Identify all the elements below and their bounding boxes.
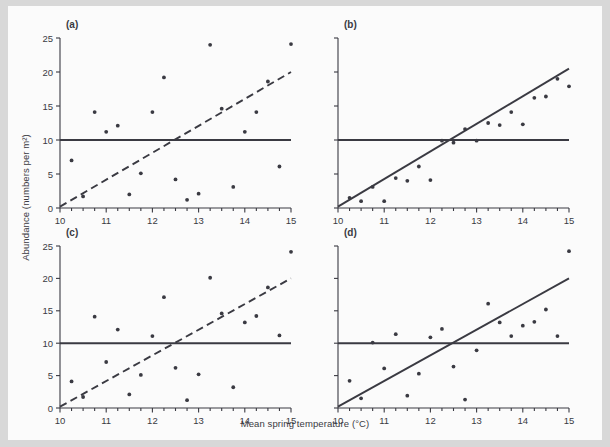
- x-tick-label: 15: [286, 215, 297, 226]
- x-tick-label: 12: [147, 215, 158, 226]
- x-tick-label: 13: [471, 415, 482, 426]
- y-tick-label: 0: [48, 403, 53, 414]
- data-point: [70, 159, 74, 163]
- data-point: [70, 380, 74, 384]
- x-tick-label: 13: [471, 215, 482, 226]
- data-point: [81, 195, 85, 199]
- data-point: [429, 335, 433, 339]
- data-point: [151, 334, 155, 338]
- data-point: [498, 321, 502, 325]
- x-tick-label: 10: [55, 415, 66, 426]
- y-tick-label: 15: [42, 305, 53, 316]
- data-point: [197, 372, 201, 376]
- data-point: [463, 127, 467, 131]
- panel-label: (d): [344, 227, 357, 238]
- data-point: [266, 286, 270, 290]
- data-point: [93, 315, 97, 319]
- data-point: [127, 392, 131, 396]
- data-point: [417, 165, 421, 169]
- data-point: [151, 110, 155, 114]
- data-point: [475, 348, 479, 352]
- y-tick-label: 5: [48, 370, 53, 381]
- data-point: [521, 324, 525, 328]
- data-point: [544, 95, 548, 99]
- x-tick-label: 15: [564, 415, 575, 426]
- panel-a: (a)0510152025101112131415: [42, 19, 296, 226]
- data-point: [556, 334, 560, 338]
- data-point: [278, 165, 282, 169]
- data-point: [162, 295, 166, 299]
- data-point: [452, 365, 456, 369]
- data-point: [185, 198, 189, 202]
- data-point: [289, 42, 293, 46]
- data-point: [371, 341, 375, 345]
- data-point: [509, 334, 513, 338]
- data-point: [139, 373, 143, 377]
- data-point: [278, 334, 282, 338]
- data-point: [394, 332, 398, 336]
- data-point: [556, 77, 560, 81]
- data-point: [254, 314, 258, 318]
- panel-label: (c): [66, 227, 78, 238]
- scatter-panel-grid: (a)0510152025101112131415(b)101112131415…: [8, 6, 602, 440]
- data-point: [486, 302, 490, 306]
- y-tick-label: 20: [42, 67, 53, 78]
- data-point: [359, 396, 363, 400]
- data-point: [208, 43, 212, 47]
- data-point: [417, 372, 421, 376]
- data-point: [567, 84, 571, 88]
- data-point: [185, 398, 189, 402]
- x-tick-label: 13: [193, 215, 204, 226]
- data-point: [405, 394, 409, 398]
- data-point: [208, 276, 212, 280]
- x-tick-label: 12: [147, 415, 158, 426]
- data-point: [521, 122, 525, 126]
- data-point: [139, 171, 143, 175]
- x-tick-label: 15: [286, 415, 297, 426]
- data-point: [243, 321, 247, 325]
- data-point: [116, 124, 120, 128]
- x-tick-label: 10: [55, 215, 66, 226]
- data-point: [104, 360, 108, 364]
- data-point: [509, 110, 513, 114]
- data-point: [452, 141, 456, 145]
- data-point: [174, 366, 178, 370]
- y-tick-label: 15: [42, 101, 53, 112]
- x-tick-label: 11: [379, 415, 389, 426]
- x-tick-label: 15: [564, 215, 575, 226]
- panel-c: (c)0510152025101112131415: [42, 227, 296, 426]
- data-point: [532, 96, 536, 100]
- data-point: [197, 192, 201, 196]
- data-point: [440, 327, 444, 331]
- x-tick-label: 13: [193, 415, 204, 426]
- x-tick-label: 11: [101, 415, 111, 426]
- data-point: [220, 311, 224, 315]
- data-point: [81, 395, 85, 399]
- x-tick-label: 14: [518, 415, 529, 426]
- data-point: [348, 379, 352, 383]
- data-point: [371, 185, 375, 189]
- data-point: [289, 250, 293, 254]
- y-tick-label: 5: [48, 169, 53, 180]
- figure-canvas: Abundance (numbers per m²) Mean spring t…: [8, 6, 602, 440]
- data-point: [498, 123, 502, 127]
- y-tick-label: 0: [48, 203, 53, 214]
- data-point: [254, 110, 258, 114]
- data-point: [544, 308, 548, 312]
- data-point: [162, 76, 166, 80]
- data-point: [116, 328, 120, 332]
- panel-label: (b): [344, 19, 357, 30]
- data-point: [104, 130, 108, 134]
- x-tick-label: 12: [425, 415, 436, 426]
- data-point: [382, 367, 386, 371]
- data-point: [382, 199, 386, 203]
- panel-d: (d)101112131415: [333, 227, 575, 426]
- y-tick-label: 10: [42, 135, 53, 146]
- x-tick-label: 12: [425, 215, 436, 226]
- data-point: [394, 176, 398, 180]
- data-point: [93, 110, 97, 114]
- x-tick-label: 10: [333, 415, 344, 426]
- x-tick-label: 14: [518, 215, 529, 226]
- data-point: [220, 107, 224, 111]
- data-point: [127, 193, 131, 197]
